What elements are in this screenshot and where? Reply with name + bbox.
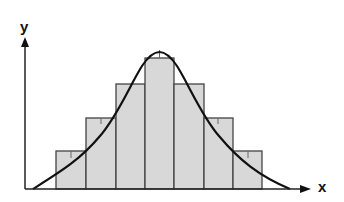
histogram-diagram bbox=[0, 0, 344, 202]
x-axis-arrow-icon bbox=[300, 185, 311, 193]
bar-5 bbox=[174, 84, 204, 189]
bar-2 bbox=[86, 118, 116, 189]
bar-6 bbox=[204, 118, 233, 189]
bars bbox=[56, 58, 262, 189]
y-axis-arrow-icon bbox=[21, 37, 29, 47]
x-axis-label: x bbox=[318, 178, 326, 195]
bar-4 bbox=[145, 58, 174, 189]
bar-3 bbox=[116, 84, 145, 189]
y-axis bbox=[21, 37, 29, 189]
y-axis-label: y bbox=[20, 18, 28, 35]
